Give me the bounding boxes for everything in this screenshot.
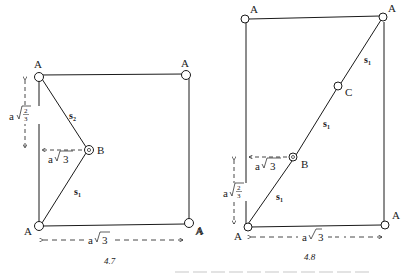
dim-vertical-label: a 2 3	[8, 106, 42, 124]
svg-text:a: a	[9, 110, 14, 122]
svg-text:3: 3	[102, 234, 108, 246]
svg-text:3: 3	[237, 192, 241, 200]
label-a-shared: A	[196, 224, 204, 236]
atom-a-top-right	[182, 71, 191, 80]
diagram-canvas: A A A A B s2 s1 a 2 3 a 3 a 3	[0, 0, 407, 274]
dim-bottom-label: a 3	[298, 229, 344, 243]
label-a: A	[392, 209, 400, 221]
atom-a-bottom-right	[381, 221, 389, 229]
dim-vertical-label: a 2 3	[222, 183, 248, 201]
label-s1: s1	[364, 54, 371, 66]
edge-top	[39, 74, 185, 75]
atom-a-top-left	[241, 15, 249, 23]
figure-4-8: A A C B A A A s1 s1 s1 a 2 3 a 3	[196, 2, 400, 262]
svg-text:a: a	[223, 187, 228, 199]
svg-text:a: a	[255, 160, 260, 172]
svg-text:3: 3	[63, 153, 69, 165]
svg-text:a: a	[48, 153, 53, 165]
vector-s1-upper	[341, 20, 381, 83]
atom-a-bottom-left	[35, 222, 44, 231]
label-s2: s2	[69, 110, 76, 122]
label-a: A	[250, 3, 258, 15]
label-a: A	[234, 230, 242, 242]
svg-text:3: 3	[270, 160, 276, 172]
atom-a-top-right	[379, 13, 387, 21]
label-s1: s1	[74, 186, 81, 198]
svg-text:2: 2	[237, 184, 241, 192]
label-b: B	[97, 144, 104, 156]
edge-bottom	[43, 224, 185, 226]
svg-text:2: 2	[24, 107, 28, 115]
label-s1: s1	[276, 191, 283, 203]
caption-4-7: 4.7	[104, 256, 116, 266]
dim-horizontal-b-label: a 3	[255, 158, 281, 172]
label-c: C	[345, 86, 352, 98]
label-b: B	[301, 158, 308, 170]
atom-b	[289, 153, 297, 161]
edge-bottom	[250, 225, 381, 227]
caption-4-8: 4.8	[304, 252, 316, 262]
vector-s2	[42, 79, 86, 147]
atom-a-bottom-right	[185, 219, 194, 228]
vector-s1-middle	[296, 90, 336, 155]
label-s1: s1	[323, 118, 330, 130]
dim-bottom-label: a 3	[86, 232, 114, 246]
figure-4-7: A A A A B s2 s1 a 2 3 a 3 a 3	[8, 57, 203, 266]
label-a: A	[388, 2, 396, 14]
label-a: A	[34, 58, 42, 70]
edge-top	[249, 16, 380, 19]
svg-text:a: a	[302, 231, 307, 243]
svg-text:a: a	[88, 234, 93, 246]
atom-c	[334, 82, 342, 90]
label-a: A	[181, 57, 189, 69]
svg-text:3: 3	[318, 231, 324, 243]
atom-a-bottom-left	[244, 223, 252, 231]
dim-horizontal-b-label: a 3	[48, 151, 73, 165]
label-a: A	[24, 225, 32, 237]
atom-b	[85, 146, 94, 155]
atom-a-top-left	[35, 73, 44, 82]
svg-text:3: 3	[24, 115, 28, 123]
